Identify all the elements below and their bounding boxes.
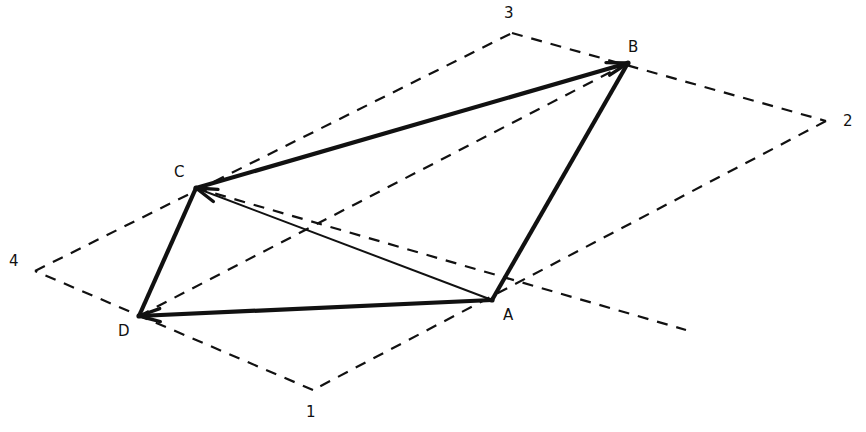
vertex-dot-c (193, 185, 198, 190)
edge-4-3 (35, 33, 512, 271)
edge-3-2 (512, 33, 826, 121)
diagonal-a-c (196, 188, 492, 300)
corner-label-1: 1 (306, 405, 316, 420)
vertex-label-c: C (174, 165, 185, 180)
corner-label-2: 2 (843, 114, 853, 129)
figure-canvas (0, 0, 866, 432)
corner-label-4: 4 (9, 254, 19, 269)
corner-label-3: 3 (504, 6, 514, 21)
vertex-dot-d (136, 313, 141, 318)
vertex-dot-b (625, 60, 630, 65)
vertex-label-b: B (628, 40, 639, 55)
vertex-dot-a (489, 297, 494, 302)
diagonal-a-c-arrowhead-barb-2 (196, 188, 218, 189)
edge-1-4 (35, 271, 313, 390)
edge-a-d (139, 300, 492, 316)
solid-diagonals (196, 188, 492, 300)
geometry-figure: ABCD1234 (0, 0, 866, 432)
dashed-parallelogram-edges (35, 33, 826, 390)
edge-d-c (139, 188, 196, 316)
vertex-label-d: D (118, 324, 130, 339)
vertex-label-a: A (503, 308, 514, 323)
